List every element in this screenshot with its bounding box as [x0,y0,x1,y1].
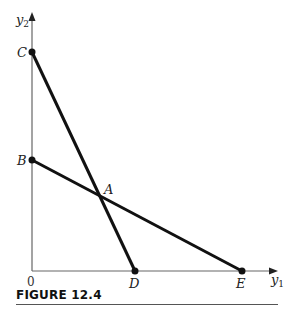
diagram-canvas: y2 C B A 0 D E y1 [0,0,293,317]
caption-rule [16,304,278,305]
axes [29,12,279,275]
label-C: C [17,45,27,60]
label-B: B [16,153,27,168]
line-BE [32,160,242,271]
y1-axis-label: y1 [270,272,284,289]
point-B [29,157,36,164]
figure-caption: FIGURE 12.4 [16,288,102,302]
line-CD [32,52,135,271]
y2-axis-arrow-icon [29,12,36,21]
point-D [132,268,139,275]
label-E: E [235,276,246,291]
origin-label: 0 [27,275,35,289]
y2-axis-label: y2 [15,12,29,29]
point-E [239,268,246,275]
label-A: A [103,182,113,197]
label-D: D [128,276,140,291]
point-C [29,49,36,56]
